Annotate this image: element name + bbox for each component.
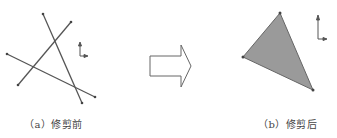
caption-before-trim: （a）修剪前 [24,116,83,131]
line-3 [7,54,95,97]
coordinate-axis-icon [79,42,89,58]
trimmed-triangle [243,13,313,90]
line-2 [18,22,71,85]
right-block-arrow-icon [150,45,191,87]
caption-after-trim: （b）修剪后 [258,116,317,131]
coordinate-axis-icon [317,15,328,41]
line-1 [43,14,82,103]
untrimmed-lines [7,14,95,103]
